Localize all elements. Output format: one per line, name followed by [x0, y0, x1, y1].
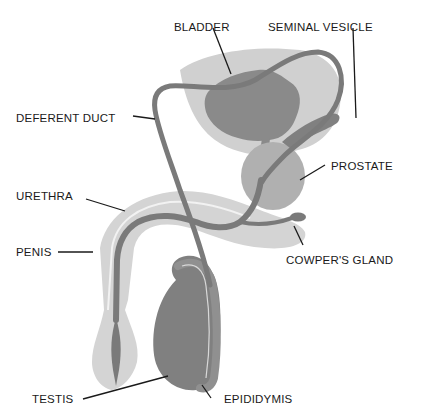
- leader-urethra: [86, 199, 125, 211]
- label-epididymis: EPIDIDYMIS: [224, 393, 293, 405]
- leader-seminal-vesicle: [353, 28, 356, 118]
- label-testis: TESTIS: [32, 393, 74, 405]
- prostate-shape: [241, 142, 305, 210]
- cowpers-gland-shape: [290, 213, 306, 222]
- label-seminal-vesicle: SEMINAL VESICLE: [268, 21, 373, 33]
- label-penis: PENIS: [16, 246, 52, 258]
- reproductive-system-diagram: BLADDER SEMINAL VESICLE DEFERENT DUCT PR…: [0, 0, 426, 416]
- leader-deferent-duct: [133, 116, 155, 119]
- label-prostate: PROSTATE: [331, 160, 393, 172]
- label-cowpers-gland: COWPER'S GLAND: [286, 254, 393, 266]
- label-bladder: BLADDER: [174, 21, 230, 33]
- label-deferent-duct: DEFERENT DUCT: [16, 112, 116, 124]
- label-urethra: URETHRA: [16, 190, 73, 202]
